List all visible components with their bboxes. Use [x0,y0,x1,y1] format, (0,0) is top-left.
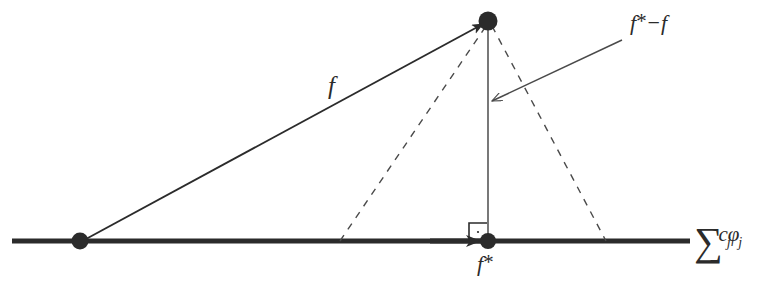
right-angle-dot [477,231,479,233]
vector-f-label: f [328,73,335,98]
diagram-canvas [0,0,774,295]
apex-node-dot [479,12,498,31]
f-star-star-glyph: * [483,250,493,274]
residual-minus-glyph: − [648,10,660,35]
projection-node-dot [480,233,496,249]
summation-sigma-icon: ∑ [694,219,722,264]
subspace-axis-label: ∑cjφj [694,222,742,262]
vector-f-arrow [86,24,483,239]
dashed-cone-right-edge [492,26,606,241]
origin-node-dot [72,233,89,250]
residual-leader-line [492,40,622,101]
dashed-cone-left-edge [340,26,486,241]
vector-f-text: f [328,72,335,99]
residual-f-suffix-text: f [661,10,667,35]
projection-diagram: f f*−f f* ∑cjφj [0,0,774,295]
projection-f-star-label: f* [477,252,494,275]
residual-f-star-minus-f-label: f*−f [630,11,667,34]
residual-star-glyph: * [636,9,646,33]
basis-phi-subscript: j [738,235,742,250]
